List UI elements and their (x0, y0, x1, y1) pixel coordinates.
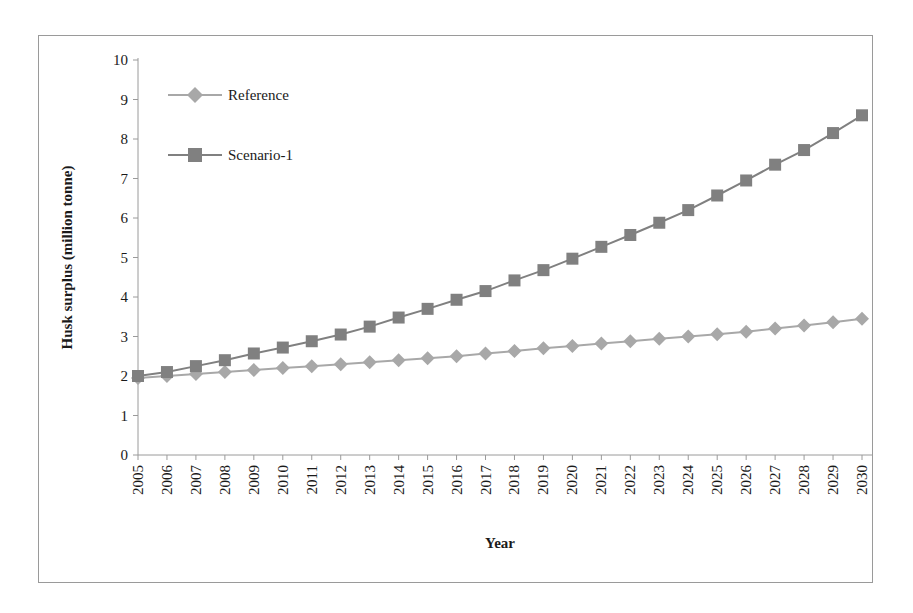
y-tick-label: 3 (121, 329, 129, 345)
y-tick-label: 2 (121, 368, 129, 384)
data-point-marker (507, 344, 521, 358)
x-tick-label: 2018 (506, 465, 522, 495)
data-point-marker (710, 327, 724, 341)
data-point-marker (681, 330, 695, 344)
data-point-marker (594, 337, 608, 351)
legend-item-scenario-1: Scenario-1 (168, 147, 293, 163)
x-tick-label: 2008 (217, 465, 233, 495)
data-point-marker (652, 332, 666, 346)
x-tick-label: 2021 (593, 465, 609, 495)
x-tick-label: 2020 (564, 465, 580, 495)
x-axis: 2005200620072008200920102011201220132014… (130, 455, 872, 495)
y-tick-label: 10 (113, 52, 128, 68)
data-point-marker (682, 204, 694, 216)
x-tick-label: 2006 (159, 465, 175, 496)
x-tick-label: 2012 (333, 465, 349, 495)
data-point-marker (508, 274, 520, 286)
data-point-marker (247, 363, 261, 377)
x-tick-label: 2014 (391, 465, 407, 496)
series-reference (131, 312, 869, 385)
x-tick-label: 2028 (796, 465, 812, 495)
data-point-marker (132, 370, 144, 382)
data-point-marker (334, 357, 348, 371)
data-point-marker (595, 241, 607, 253)
x-axis-title: Year (485, 535, 515, 551)
data-point-marker (364, 321, 376, 333)
x-tick-label: 2026 (738, 465, 754, 496)
data-point-marker (537, 264, 549, 276)
data-point-marker (479, 346, 493, 360)
x-tick-label: 2009 (246, 465, 262, 495)
data-point-marker (219, 354, 231, 366)
data-point-marker (190, 360, 202, 372)
data-point-marker (653, 217, 665, 229)
x-tick-label: 2007 (188, 465, 204, 496)
x-tick-label: 2015 (420, 465, 436, 495)
data-point-marker (421, 351, 435, 365)
legend-item-reference: Reference (168, 87, 289, 103)
y-axis-title: Husk surplus (million tonne) (59, 166, 76, 350)
data-point-marker (422, 303, 434, 315)
x-tick-label: 2011 (304, 465, 320, 494)
x-tick-label: 2023 (651, 465, 667, 495)
data-point-marker (740, 174, 752, 186)
legend-label: Scenario-1 (228, 147, 293, 163)
data-point-marker (248, 347, 260, 359)
data-point-marker (450, 349, 464, 363)
data-point-marker (566, 253, 578, 265)
data-point-marker (711, 189, 723, 201)
data-point-marker (363, 355, 377, 369)
x-tick-label: 2010 (275, 465, 291, 495)
x-tick-label: 2027 (767, 465, 783, 496)
chart-figure: 012345678910 200520062007200820092010201… (0, 0, 913, 613)
data-point-marker (335, 329, 347, 341)
data-point-marker (392, 353, 406, 367)
y-tick-label: 8 (121, 131, 129, 147)
y-axis: 012345678910 (113, 52, 138, 463)
y-tick-label: 7 (121, 171, 129, 187)
legend-marker (187, 87, 203, 103)
data-point-marker (769, 159, 781, 171)
data-point-marker (305, 359, 319, 373)
y-tick-label: 1 (121, 408, 129, 424)
x-tick-label: 2017 (478, 465, 494, 496)
x-tick-label: 2013 (362, 465, 378, 495)
x-tick-label: 2024 (680, 465, 696, 496)
x-tick-label: 2029 (825, 465, 841, 495)
data-point-marker (306, 335, 318, 347)
x-tick-label: 2019 (535, 465, 551, 495)
data-point-marker (624, 229, 636, 241)
y-tick-label: 5 (121, 250, 129, 266)
legend-marker (188, 148, 202, 162)
data-point-marker (451, 294, 463, 306)
y-tick-label: 9 (121, 92, 129, 108)
legend-label: Reference (228, 87, 289, 103)
chart-legend: ReferenceScenario-1 (168, 87, 293, 163)
series-line (138, 319, 862, 378)
data-point-marker (218, 365, 232, 379)
data-point-marker (768, 322, 782, 336)
data-point-marker (480, 285, 492, 297)
data-point-marker (393, 312, 405, 324)
x-tick-label: 2022 (622, 465, 638, 495)
x-tick-label: 2016 (449, 465, 465, 496)
data-point-marker (826, 315, 840, 329)
data-point-marker (827, 127, 839, 139)
x-tick-label: 2025 (709, 465, 725, 495)
y-tick-label: 0 (121, 447, 129, 463)
data-point-marker (276, 361, 290, 375)
data-point-marker (565, 339, 579, 353)
data-point-marker (161, 366, 173, 378)
data-point-marker (623, 334, 637, 348)
line-chart: 012345678910 200520062007200820092010201… (0, 0, 913, 613)
x-tick-label: 2030 (854, 465, 870, 495)
y-tick-label: 6 (121, 210, 129, 226)
data-point-marker (739, 325, 753, 339)
data-point-marker (277, 342, 289, 354)
data-point-marker (536, 341, 550, 355)
data-point-marker (855, 312, 869, 326)
data-point-marker (856, 109, 868, 121)
data-point-marker (797, 318, 811, 332)
data-point-marker (798, 144, 810, 156)
x-tick-label: 2005 (130, 465, 146, 495)
